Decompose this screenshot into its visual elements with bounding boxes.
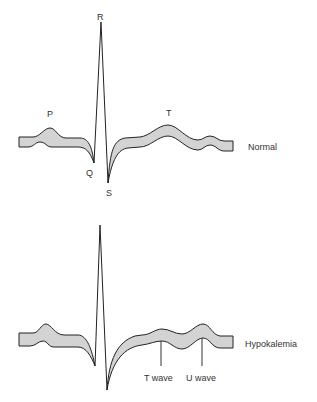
label-q: Q (86, 168, 93, 178)
hypokalemia-trace (19, 225, 233, 390)
hypokalemia-band-left (19, 324, 95, 366)
label-normal: Normal (248, 142, 277, 152)
hypokalemia-qrs (95, 225, 107, 390)
label-r: R (97, 12, 104, 22)
label-u-wave: U wave (186, 373, 216, 383)
normal-qrs (94, 22, 108, 183)
label-t: T (166, 108, 172, 118)
normal-trace (19, 22, 233, 183)
label-s: S (106, 188, 112, 198)
normal-band-right (108, 125, 233, 183)
label-p: P (47, 109, 53, 119)
label-hypokalemia: Hypokalemia (245, 339, 297, 349)
ecg-diagram: P Q R S T Normal T wave U wave Hypokalem… (0, 0, 317, 402)
normal-band-left (19, 128, 94, 163)
label-t-wave: T wave (144, 373, 173, 383)
